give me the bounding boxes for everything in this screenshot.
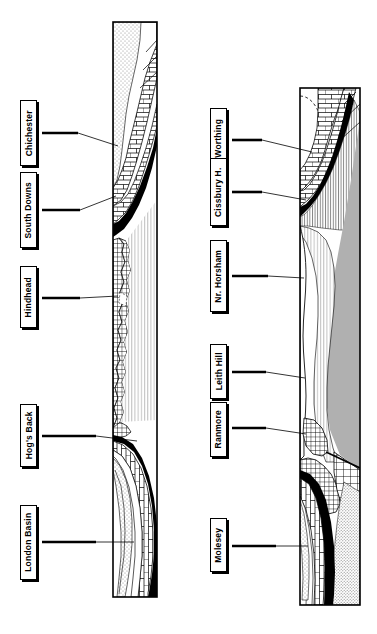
leader-chichester-thin xyxy=(78,133,118,146)
label-south-downs-text: South Downs xyxy=(24,182,33,239)
label-nr-horsham-text: Nr. Horsham xyxy=(214,250,223,303)
label-hindhead-text: Hindhead xyxy=(24,277,33,317)
cross-section-artwork xyxy=(0,0,377,634)
leader-leith-hill-thin xyxy=(266,372,305,378)
label-london-basin[interactable]: London Basin xyxy=(20,505,37,580)
label-hogs-back[interactable]: Hog's Back xyxy=(20,404,37,467)
label-molesey[interactable]: Molesey xyxy=(210,518,227,572)
leader-south-downs-thin xyxy=(80,196,116,210)
label-ranmore-text: Ranmore xyxy=(214,410,223,448)
left-panel-strata xyxy=(113,22,158,597)
leader-horsham-thin xyxy=(268,276,304,278)
label-cissbury-h-text: Cissbury H. xyxy=(214,167,223,216)
label-leith-hill-text: Leith Hill xyxy=(214,353,223,391)
label-south-downs[interactable]: South Downs xyxy=(20,172,37,248)
label-hindhead[interactable]: Hindhead xyxy=(20,266,37,328)
right-panel-strata xyxy=(300,88,360,605)
label-chichester-text: Chichester xyxy=(24,110,33,156)
label-leith-hill[interactable]: Leith Hill xyxy=(210,344,227,399)
label-london-basin-text: London Basin xyxy=(24,513,33,572)
label-hogs-back-text: Hog's Back xyxy=(24,412,33,460)
label-nr-horsham[interactable]: Nr. Horsham xyxy=(210,240,227,312)
geological-cross-section-figure: Chichester South Downs Hindhead Hog's Ba… xyxy=(0,0,377,634)
label-ranmore[interactable]: Ranmore xyxy=(210,402,227,457)
label-worthing-text: Worthing xyxy=(214,119,223,158)
label-cissbury-h[interactable]: Cissbury H. xyxy=(210,158,227,226)
label-molesey-text: Molesey xyxy=(214,528,223,563)
label-chichester[interactable]: Chichester xyxy=(20,100,37,166)
